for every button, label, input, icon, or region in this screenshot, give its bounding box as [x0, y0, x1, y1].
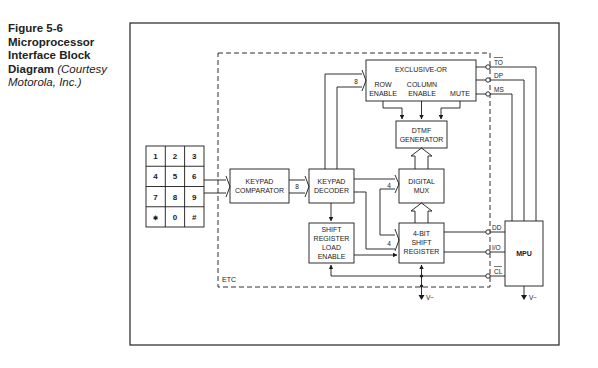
- xor-title: EXCLUSIVE-OR: [395, 66, 447, 73]
- bus-width-label: 4: [387, 240, 391, 247]
- shift-label-1: 4-BIT: [413, 230, 431, 237]
- key-star: ✱: [153, 215, 158, 221]
- key-4: 4: [153, 172, 158, 181]
- dtmf-label-2: GENERATOR: [400, 136, 444, 143]
- keypad-comparator-block: [230, 169, 289, 203]
- keypad-decoder-block: [309, 169, 354, 203]
- key-hash: #: [192, 213, 197, 222]
- mute-arrow: [441, 101, 460, 119]
- pin-label-dp: DP: [494, 72, 503, 79]
- mpu-ground-label: V−: [529, 294, 537, 301]
- comparator-label-2: COMPARATOR: [235, 187, 284, 194]
- ms-pin-icon: [486, 92, 490, 96]
- decoder-xor-bus: [325, 70, 366, 169]
- to-pin-icon: [486, 65, 490, 69]
- pin-label-dd: DD: [492, 224, 502, 231]
- mux-dtmf-hollow-arrow: [411, 148, 432, 169]
- mux-label-1: DIGITAL: [408, 178, 435, 185]
- digital-mux-block: [399, 169, 444, 203]
- pin-label-io: I/O: [492, 244, 501, 251]
- mux-label-2: MUX: [414, 187, 430, 194]
- mpu-label: MPU: [516, 250, 532, 257]
- ms-line: [490, 94, 512, 221]
- key-0: 0: [173, 213, 178, 222]
- cl-line: [331, 265, 486, 276]
- etc-ground-label: V−: [426, 294, 434, 301]
- ground-icon: [521, 295, 527, 300]
- block-diagram: ETC: [0, 0, 598, 368]
- column-enable-label-2: ENABLE: [408, 90, 436, 97]
- shift-mux-hollow-arrow: [411, 203, 432, 223]
- key-7: 7: [153, 193, 158, 202]
- load-enable-label-3: LOAD: [322, 244, 341, 251]
- junction-dot: [420, 274, 423, 277]
- dp-pin-icon: [486, 78, 490, 82]
- etc-label: ETC: [222, 276, 236, 283]
- key-3: 3: [192, 152, 197, 161]
- load-enable-label-2: REGISTER: [314, 235, 350, 242]
- key-2: 2: [173, 152, 178, 161]
- decoder-mux-bus: [354, 175, 399, 193]
- bus-width-label: 4: [387, 182, 391, 189]
- pin-label-ms: MS: [494, 86, 504, 93]
- key-5: 5: [173, 172, 178, 181]
- dtmf-label-1: DTMF: [412, 127, 431, 134]
- comparator-decoder-bus: [289, 176, 309, 197]
- pin-label-cl: CL: [494, 268, 503, 275]
- dd-pin-icon: [486, 230, 490, 234]
- row-enable-label-1: ROW: [374, 81, 392, 88]
- bus-width-label: 8: [354, 78, 358, 85]
- shift-label-2: SHIFT: [411, 239, 432, 246]
- row-enable-label-2: ENABLE: [369, 90, 397, 97]
- key-1: 1: [153, 152, 158, 161]
- key-9: 9: [192, 193, 197, 202]
- key-6: 6: [192, 172, 197, 181]
- cl-pin-icon: [486, 274, 490, 278]
- keypad-bus-arrow: [204, 176, 230, 197]
- dtmf-generator-block: [396, 121, 447, 148]
- dp-line: [490, 80, 524, 221]
- key-8: 8: [173, 193, 178, 202]
- ground-icon: [419, 295, 425, 300]
- comparator-label-1: KEYPAD: [246, 178, 274, 185]
- load-enable-label-4: ENABLE: [318, 253, 346, 260]
- column-enable-label-1: COLUMN: [407, 81, 437, 88]
- decoder-label-2: DECODER: [314, 187, 349, 194]
- decoder-label-1: KEYPAD: [318, 178, 346, 185]
- bus-width-label: 8: [295, 183, 299, 190]
- mute-label: MUTE: [450, 90, 470, 97]
- shift-label-3: REGISTER: [404, 248, 440, 255]
- row-enable-arrow: [383, 101, 402, 119]
- load-enable-label-1: SHIFT: [321, 226, 342, 233]
- pin-label-to: TO: [494, 59, 503, 66]
- junction-dot: [420, 284, 423, 287]
- io-pin-icon: [486, 250, 490, 254]
